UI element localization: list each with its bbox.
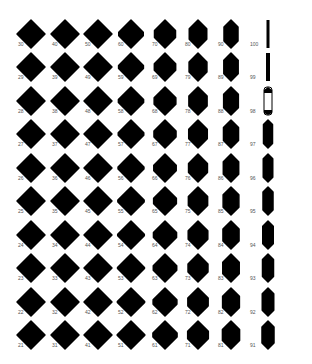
cell-caption: ·····: [233, 113, 237, 115]
cell-label: 39: [52, 75, 58, 80]
cell-label: 99: [250, 75, 256, 80]
cell-caption: ·····: [233, 79, 237, 81]
cell-caption: ·····: [200, 314, 204, 316]
cell-caption: ·····: [33, 280, 37, 282]
cell-caption: ·····: [233, 347, 237, 349]
cell-caption: ·····: [200, 180, 204, 182]
cell-caption: ·····: [67, 213, 71, 215]
cell-caption: ·····: [272, 79, 276, 81]
cell-label: 100: [250, 42, 258, 47]
cell-caption: ·····: [67, 314, 71, 316]
cell-caption: ·····: [67, 280, 71, 282]
cell-label: 27: [18, 142, 24, 147]
cell-caption: ·····: [272, 247, 276, 249]
cell-label: 68: [152, 109, 158, 114]
cell-label: 49: [85, 75, 91, 80]
cell-caption: ·····: [33, 213, 37, 215]
cell-caption: ·····: [272, 213, 276, 215]
cell-label: 70: [152, 42, 158, 47]
cell-label: 38: [52, 109, 58, 114]
cell-label: 62: [152, 310, 158, 315]
cell-label: 31: [52, 343, 58, 348]
cell-label: 76: [185, 176, 191, 181]
cell-label: 66: [152, 176, 158, 181]
cell-caption: ·····: [33, 247, 37, 249]
cell-label: 45: [85, 209, 91, 214]
cell-label: 24: [18, 243, 24, 248]
hexagon-shape-icon: [211, 117, 251, 151]
cell-caption: ·····: [100, 146, 104, 148]
cell-label: 80: [185, 42, 191, 47]
cell-caption: ·····: [272, 280, 276, 282]
cell-label: 97: [250, 142, 256, 147]
cell-label: 78: [185, 109, 191, 114]
cell-label: 59: [118, 75, 124, 80]
cell-label: 36: [52, 176, 58, 181]
cell-caption: ·····: [133, 180, 137, 182]
cell-label: 95: [250, 209, 256, 214]
cell-caption: ·····: [167, 180, 171, 182]
cell-label: 60: [118, 42, 124, 47]
cell-label: 28: [18, 109, 24, 114]
cell-caption: ·····: [233, 314, 237, 316]
cell-label: 23: [18, 276, 24, 281]
cell-label: 58: [118, 109, 124, 114]
cell-caption: ·····: [100, 247, 104, 249]
cell-label: 51: [118, 343, 124, 348]
cell-label: 35: [52, 209, 58, 214]
cell-label: 47: [85, 142, 91, 147]
cell-label: 30: [18, 42, 24, 47]
cell-label: 79: [185, 75, 191, 80]
cell-label: 71: [185, 343, 191, 348]
cell-label: 33: [52, 276, 58, 281]
cell-label: 77: [185, 142, 191, 147]
cell-caption: ·····: [233, 280, 237, 282]
cell-caption: ·····: [272, 314, 276, 316]
cell-label: 43: [85, 276, 91, 281]
cell-label: 42: [85, 310, 91, 315]
cell-caption: ·····: [67, 180, 71, 182]
cell-label: 90: [218, 42, 224, 47]
cell-label: 74: [185, 243, 191, 248]
hexagon-shape-icon: [211, 84, 251, 118]
cell-caption: ·····: [133, 146, 137, 148]
cell-label: 46: [85, 176, 91, 181]
cell-caption: ·····: [167, 146, 171, 148]
cell-caption: ·····: [272, 347, 276, 349]
cell-label: 69: [152, 75, 158, 80]
cell-label: 89: [218, 75, 224, 80]
hexagon-shape-icon: [211, 151, 251, 185]
cell-caption: ·····: [167, 46, 171, 48]
cell-caption: ·····: [133, 46, 137, 48]
cell-caption: ·····: [200, 247, 204, 249]
cell-caption: ·····: [200, 213, 204, 215]
cell-caption: ·····: [233, 146, 237, 148]
cell-caption: ·····: [100, 213, 104, 215]
cell-label: 32: [52, 310, 58, 315]
cell-label: 21: [18, 343, 24, 348]
cell-caption: ·····: [167, 314, 171, 316]
cell-caption: ·····: [67, 113, 71, 115]
cell-label: 63: [152, 276, 158, 281]
cell-caption: ·····: [200, 280, 204, 282]
cell-caption: ·····: [133, 79, 137, 81]
hexagon-shape-icon: [211, 285, 251, 319]
cell-caption: ·····: [233, 180, 237, 182]
cell-caption: ·····: [133, 247, 137, 249]
cell-caption: ·····: [167, 113, 171, 115]
cell-caption: ·····: [67, 79, 71, 81]
cell-label: 22: [18, 310, 24, 315]
cell-label: 87: [218, 142, 224, 147]
cell-caption: ·····: [100, 347, 104, 349]
cell-caption: ·····: [272, 46, 276, 48]
cell-caption: ·····: [33, 314, 37, 316]
cell-caption: ·····: [100, 280, 104, 282]
cell-label: 92: [250, 310, 256, 315]
cell-label: 65: [152, 209, 158, 214]
cell-caption: ·····: [67, 247, 71, 249]
cell-label: 55: [118, 209, 124, 214]
cell-caption: ·····: [167, 247, 171, 249]
cell-caption: ·····: [200, 347, 204, 349]
cell-caption: ·····: [100, 46, 104, 48]
cell-caption: ·····: [200, 79, 204, 81]
